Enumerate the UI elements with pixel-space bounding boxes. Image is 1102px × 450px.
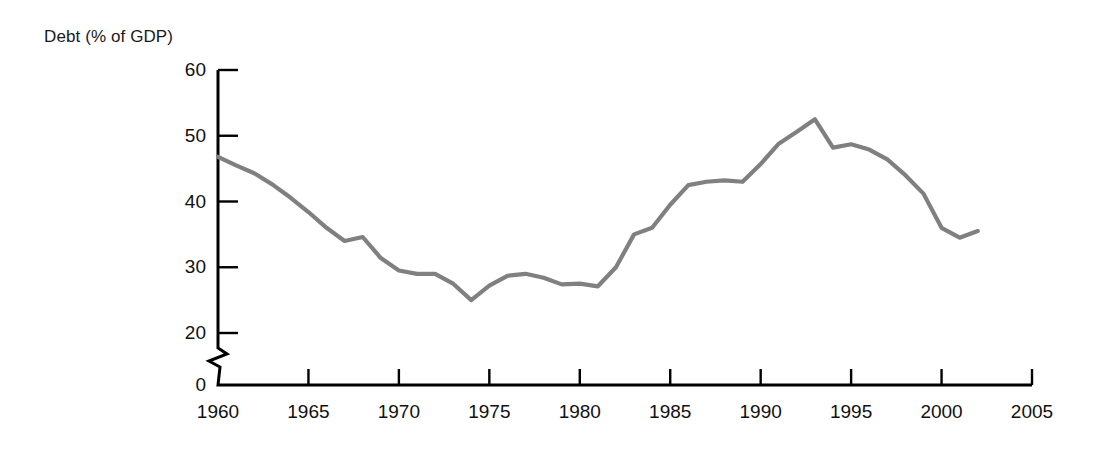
y-tick-label-60: 60 bbox=[160, 60, 206, 79]
chart-figure: Debt (% of GDP) 02030405060 196019651970… bbox=[0, 0, 1102, 450]
x-tick-label-1980: 1980 bbox=[545, 402, 615, 421]
y-tick-label-0: 0 bbox=[160, 375, 206, 394]
x-tick-label-2005: 2005 bbox=[997, 402, 1067, 421]
y-tick-label-30: 30 bbox=[160, 257, 206, 276]
x-tick-label-1960: 1960 bbox=[183, 402, 253, 421]
x-tick-label-1985: 1985 bbox=[635, 402, 705, 421]
x-tick-label-1990: 1990 bbox=[726, 402, 796, 421]
axis-spine bbox=[209, 70, 1032, 385]
y-tick-label-40: 40 bbox=[160, 192, 206, 211]
x-tick-label-1965: 1965 bbox=[273, 402, 343, 421]
y-tick-label-20: 20 bbox=[160, 323, 206, 342]
x-tick-label-1975: 1975 bbox=[454, 402, 524, 421]
debt-series-line bbox=[218, 119, 978, 300]
y-tick-label-50: 50 bbox=[160, 126, 206, 145]
axis-group bbox=[209, 70, 1032, 385]
x-tick-label-2000: 2000 bbox=[907, 402, 977, 421]
x-tick-label-1970: 1970 bbox=[364, 402, 434, 421]
x-tick-label-1995: 1995 bbox=[816, 402, 886, 421]
x-tick-marks bbox=[308, 369, 941, 385]
